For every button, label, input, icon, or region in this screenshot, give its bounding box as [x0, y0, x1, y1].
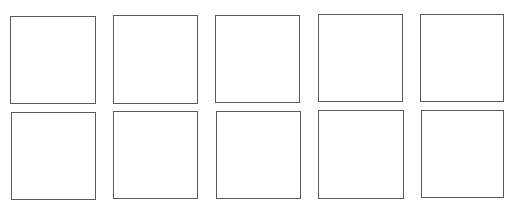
empty-box-r2-c2	[113, 111, 198, 199]
empty-box-r1-c3	[215, 15, 300, 103]
empty-box-r2-c5	[421, 110, 504, 198]
empty-box-r1-c2	[113, 15, 198, 104]
empty-box-r2-c3	[216, 111, 301, 199]
blank-grid-canvas	[0, 0, 514, 209]
empty-box-r2-c4	[318, 110, 404, 199]
empty-box-r1-c4	[318, 14, 403, 102]
empty-box-r2-c1	[11, 112, 96, 200]
empty-box-r1-c5	[420, 14, 504, 102]
empty-box-r1-c1	[10, 16, 96, 104]
